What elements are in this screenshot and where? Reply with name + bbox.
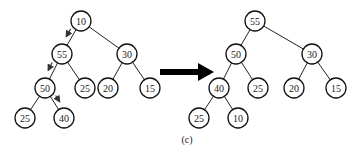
tree-node: 25 [75,78,95,98]
tree-node: 20 [98,78,118,98]
tree-node: 50 [35,78,55,98]
node-value: 10 [76,16,86,27]
tree-node: 15 [326,78,346,98]
node-value: 25 [194,113,204,124]
right-arrow-shaft [160,69,200,75]
tree-edge [318,62,330,80]
sift-path-arrow-icon [56,95,60,101]
tree-node: 20 [284,78,304,98]
tree-node: 40 [54,108,74,128]
tree-edge [299,63,308,79]
node-value: 20 [289,83,299,94]
tree-edge [205,96,214,109]
node-value: 30 [122,49,132,60]
tree-edge [31,96,40,109]
node-value: 40 [59,113,69,124]
tree-node: 40 [209,78,229,98]
tree-node: 15 [140,78,160,98]
tree-node: 55 [245,11,265,31]
node-value: 40 [214,83,224,94]
tree-node: 25 [15,108,35,128]
tree-edge [224,96,232,109]
tree-edge [68,62,80,79]
tree-edge [133,62,145,79]
tree-edge [223,63,231,79]
tree-node: 30 [302,44,322,64]
transition-arrow [160,63,214,81]
tree-node: 30 [117,44,137,64]
node-value: 50 [40,83,50,94]
tree-edge [241,62,252,79]
node-value: 25 [20,113,30,124]
node-value: 30 [307,49,317,60]
tree-edge [113,63,122,80]
node-value: 25 [80,83,90,94]
tree-node: 10 [71,11,91,31]
tree-node: 10 [228,108,248,128]
node-value: 25 [253,83,263,94]
figure-caption: (c) [181,134,192,146]
node-value: 55 [250,16,260,27]
node-value: 15 [331,83,341,94]
right-arrow-head [198,63,214,81]
sift-path-arrow-icon [66,29,70,37]
tree-node: 50 [226,44,246,64]
tree-edge [264,26,304,49]
node-value: 50 [231,49,241,60]
node-value: 10 [233,113,243,124]
node-value: 20 [103,83,113,94]
before-tree: 105530502520152540 [15,11,160,128]
tree-edge [241,30,250,46]
tree-node: 25 [189,108,209,128]
after-tree: 555030402520152510 [189,11,346,128]
heap-sift-down-diagram: 105530502520152540 555030402520152510 (c… [0,0,356,157]
sift-path-arrow-icon [48,62,52,70]
node-value: 15 [145,83,155,94]
tree-node: 25 [248,78,268,98]
tree-edge [89,27,119,48]
node-value: 55 [57,49,67,60]
tree-node: 55 [52,44,72,64]
